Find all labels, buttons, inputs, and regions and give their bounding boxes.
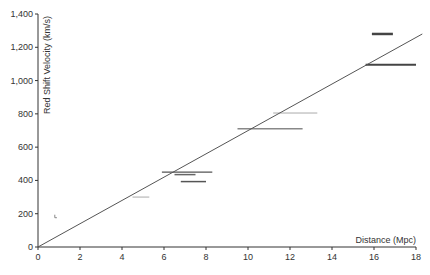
- y-tick-label: 600: [18, 142, 33, 152]
- fit-line: [38, 34, 422, 247]
- x-tick-label: 4: [119, 252, 124, 262]
- x-tick-label: 12: [285, 252, 295, 262]
- x-tick-label: 2: [77, 252, 82, 262]
- y-tick-label: 0: [28, 242, 33, 252]
- y-tick-label: 800: [18, 109, 33, 119]
- hubble-chart: 02004006008001,0001,2001,400 02468101214…: [0, 0, 430, 275]
- x-tick-label: 16: [369, 252, 379, 262]
- y-axis: 02004006008001,0001,2001,400: [10, 9, 38, 252]
- x-tick-label: 8: [203, 252, 208, 262]
- hubble-fit-line: [38, 34, 422, 247]
- y-axis-title: Red Shift Velocity (km/s): [42, 16, 52, 114]
- x-tick-label: 6: [161, 252, 166, 262]
- x-tick-label: 18: [411, 252, 421, 262]
- distance-range-bars: [55, 34, 416, 218]
- y-tick-label: 200: [18, 209, 33, 219]
- y-tick-label: 1,000: [10, 76, 33, 86]
- x-tick-label: 10: [243, 252, 253, 262]
- x-axis-title: Distance (Mpc): [355, 235, 416, 245]
- y-tick-label: 400: [18, 175, 33, 185]
- x-tick-label: 14: [327, 252, 337, 262]
- y-tick-label: 1,200: [10, 42, 33, 52]
- y-tick-label: 1,400: [10, 9, 33, 19]
- x-axis: 024681012141618: [35, 247, 421, 262]
- x-tick-label: 0: [35, 252, 40, 262]
